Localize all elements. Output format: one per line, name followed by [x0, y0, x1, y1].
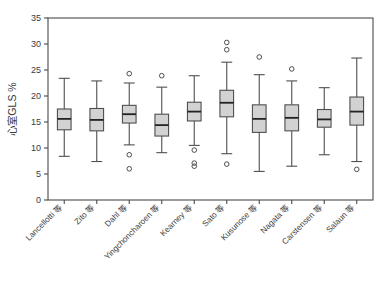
box-plot-group — [252, 55, 266, 172]
y-axis-tick-label: 0 — [36, 195, 41, 205]
outlier-point — [127, 152, 132, 157]
box-plot-group — [350, 58, 364, 172]
y-axis-tick-label: 35 — [31, 13, 41, 23]
outlier-point — [159, 73, 164, 78]
outlier-point — [224, 40, 229, 45]
box-plot-group — [155, 73, 169, 152]
box-plot-group — [220, 40, 234, 166]
outlier-point — [354, 167, 359, 172]
x-axis-tick-label: Nagata 等 — [258, 202, 291, 235]
x-axis-tick-label: Zito 等 — [72, 202, 96, 226]
x-axis-tick-label: Lancellotti 等 — [23, 202, 63, 242]
outlier-point — [127, 71, 132, 76]
x-axis-tick-label: Dahl 等 — [102, 202, 128, 228]
boxplot-figure: 05101520253035心室GLS %Lancellotti 等Zito 等… — [0, 0, 392, 297]
outlier-point — [224, 47, 229, 52]
y-axis-tick-label: 5 — [36, 169, 41, 179]
boxplot-chart: 05101520253035心室GLS %Lancellotti 等Zito 等… — [0, 0, 392, 297]
outlier-point — [127, 167, 132, 172]
y-axis-tick-label: 25 — [31, 65, 41, 75]
outlier-point — [192, 164, 197, 169]
box-plot-group — [187, 76, 201, 169]
outlier-point — [224, 162, 229, 167]
box-iqr — [317, 110, 331, 128]
x-axis-tick-label: Salaun 等 — [324, 202, 356, 234]
outlier-point — [257, 55, 262, 60]
x-axis-tick-label: Yingchoncharoen 等 — [102, 202, 161, 261]
box-plot-group — [90, 81, 104, 162]
box-plot-group — [317, 88, 331, 155]
y-axis-tick-label: 30 — [31, 39, 41, 49]
outlier-point — [289, 67, 294, 72]
y-axis-tick-label: 15 — [31, 117, 41, 127]
x-axis-tick-label: Sato 等 — [200, 202, 226, 228]
box-plot-group — [57, 78, 71, 156]
x-axis-tick-label: Kearney 等 — [158, 202, 194, 238]
y-axis-label: 心室GLS % — [6, 82, 18, 135]
box-plot-group — [122, 71, 136, 171]
box-plot-group — [285, 67, 299, 167]
y-axis-tick-label: 10 — [31, 143, 41, 153]
y-axis-tick-label: 20 — [31, 91, 41, 101]
outlier-point — [192, 148, 197, 153]
